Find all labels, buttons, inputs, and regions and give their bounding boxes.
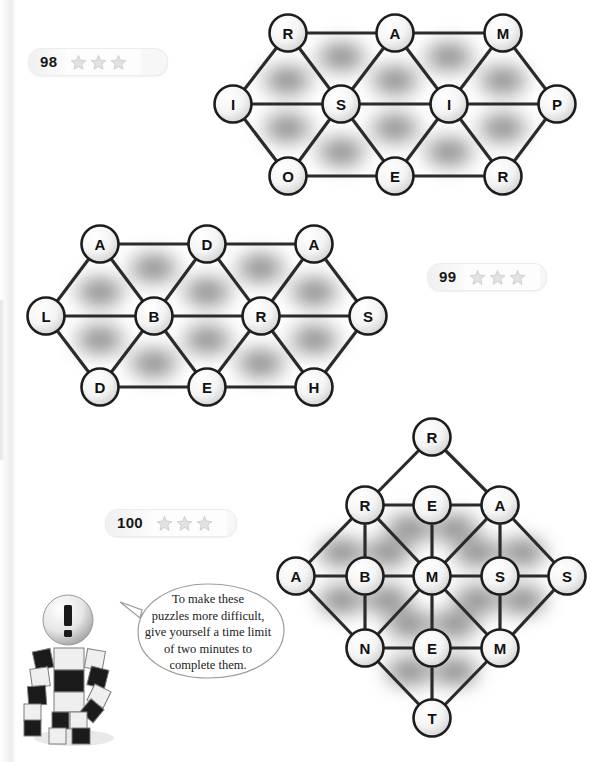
tip-line: To make these bbox=[134, 591, 282, 608]
cell-shade bbox=[315, 135, 367, 169]
node-letter: S bbox=[363, 308, 373, 325]
grid-node[interactable]: M bbox=[485, 15, 522, 54]
cell-shade bbox=[128, 346, 180, 380]
grid-node[interactable]: S bbox=[323, 86, 360, 125]
tip-line: of two minutes to bbox=[134, 641, 282, 658]
node-letter: R bbox=[283, 25, 294, 42]
tip-line: complete them. bbox=[134, 657, 282, 674]
grid-node[interactable]: D bbox=[189, 226, 226, 265]
grid-node[interactable]: S bbox=[549, 558, 586, 597]
cell-shade bbox=[288, 323, 340, 357]
grid-node[interactable]: I bbox=[215, 86, 252, 125]
grid-node[interactable]: E bbox=[189, 369, 226, 408]
node-letter: P bbox=[552, 96, 562, 113]
cell-shade bbox=[477, 111, 529, 145]
grid-node[interactable]: S bbox=[350, 298, 387, 337]
node-letter: R bbox=[427, 429, 438, 446]
cell-shade bbox=[235, 251, 287, 285]
cell-shade bbox=[315, 40, 367, 74]
node-letter: A bbox=[390, 25, 401, 42]
node-letter: R bbox=[256, 308, 267, 325]
node-letter: E bbox=[427, 497, 437, 514]
grid-node[interactable]: A bbox=[82, 226, 119, 265]
grid-node[interactable]: E bbox=[414, 630, 451, 669]
puzzle-98: RAMISIPOER bbox=[215, 15, 576, 197]
cell-shade bbox=[369, 111, 421, 145]
grid-node[interactable]: E bbox=[414, 487, 451, 526]
grid-node[interactable]: R bbox=[243, 298, 280, 337]
cell-shade bbox=[128, 251, 180, 285]
cell-shade bbox=[74, 275, 126, 309]
cell-shade bbox=[288, 275, 340, 309]
grid-node[interactable]: R bbox=[270, 15, 307, 54]
cell-shade bbox=[261, 111, 313, 145]
cell-shade bbox=[181, 275, 233, 309]
node-letter: E bbox=[202, 379, 212, 396]
grid-node[interactable]: R bbox=[347, 487, 384, 526]
grid-node[interactable]: A bbox=[296, 226, 333, 265]
grid-node[interactable]: S bbox=[482, 558, 519, 597]
node-letter: M bbox=[497, 25, 510, 42]
grid-node[interactable]: R bbox=[485, 158, 522, 197]
puzzle-99: ADALBRSDEH bbox=[28, 226, 387, 408]
grid-node[interactable]: O bbox=[270, 158, 307, 197]
node-letter: R bbox=[360, 497, 371, 514]
node-letter: B bbox=[360, 568, 371, 585]
node-letter: I bbox=[231, 96, 235, 113]
puzzle-98-edges bbox=[233, 33, 557, 176]
cell-shade bbox=[423, 40, 475, 74]
node-letter: B bbox=[149, 308, 160, 325]
grid-node[interactable]: N bbox=[347, 630, 384, 669]
grid-node[interactable]: T bbox=[414, 700, 451, 739]
grid-node[interactable]: R bbox=[414, 419, 451, 458]
tip-text: To make thesepuzzles more difficult,give… bbox=[134, 591, 282, 674]
node-letter: E bbox=[390, 168, 400, 185]
grid-node[interactable]: H bbox=[296, 369, 333, 408]
tip-speech-bubble: To make thesepuzzles more difficult,give… bbox=[118, 578, 296, 686]
node-letter: M bbox=[426, 568, 439, 585]
tip-line: puzzles more difficult, bbox=[134, 608, 282, 625]
node-letter: H bbox=[309, 379, 320, 396]
cell-shade bbox=[369, 63, 421, 97]
grid-node[interactable]: B bbox=[136, 298, 173, 337]
grid-node[interactable]: M bbox=[482, 630, 519, 669]
node-letter: D bbox=[95, 379, 106, 396]
node-letter: A bbox=[309, 236, 320, 253]
node-letter: L bbox=[41, 308, 50, 325]
node-letter: O bbox=[282, 168, 294, 185]
cell-shade bbox=[181, 323, 233, 357]
grid-node[interactable]: P bbox=[539, 86, 576, 125]
grid-node[interactable]: L bbox=[28, 298, 65, 337]
node-letter: I bbox=[447, 96, 451, 113]
tip-line: give yourself a time limit bbox=[134, 624, 282, 641]
grid-node[interactable]: B bbox=[347, 558, 384, 597]
node-letter: A bbox=[495, 497, 506, 514]
grid-node[interactable]: M bbox=[414, 558, 451, 597]
cell-shade bbox=[477, 63, 529, 97]
node-letter: S bbox=[336, 96, 346, 113]
node-letter: E bbox=[427, 640, 437, 657]
node-letter: S bbox=[495, 568, 505, 585]
grid-node[interactable]: A bbox=[482, 487, 519, 526]
puzzle-100: RREAABMSSNEMT bbox=[278, 419, 586, 739]
node-letter: D bbox=[202, 236, 213, 253]
puzzle-99-edges bbox=[46, 244, 368, 387]
node-letter: A bbox=[95, 236, 106, 253]
node-letter: S bbox=[562, 568, 572, 585]
grid-node[interactable]: I bbox=[431, 86, 468, 125]
exclamation-icon bbox=[64, 605, 72, 637]
cell-shade bbox=[235, 346, 287, 380]
cell-shade bbox=[261, 63, 313, 97]
cell-shade bbox=[423, 135, 475, 169]
grid-node[interactable]: A bbox=[377, 15, 414, 54]
grid-node[interactable]: D bbox=[82, 369, 119, 408]
node-letter: M bbox=[494, 640, 507, 657]
node-letter: T bbox=[427, 710, 436, 727]
cell-shade bbox=[74, 323, 126, 357]
node-letter: N bbox=[360, 640, 371, 657]
grid-node[interactable]: E bbox=[377, 158, 414, 197]
puzzle-page: 98 99 100 bbox=[0, 0, 591, 762]
node-letter: R bbox=[498, 168, 509, 185]
robot-mascot bbox=[18, 588, 130, 748]
